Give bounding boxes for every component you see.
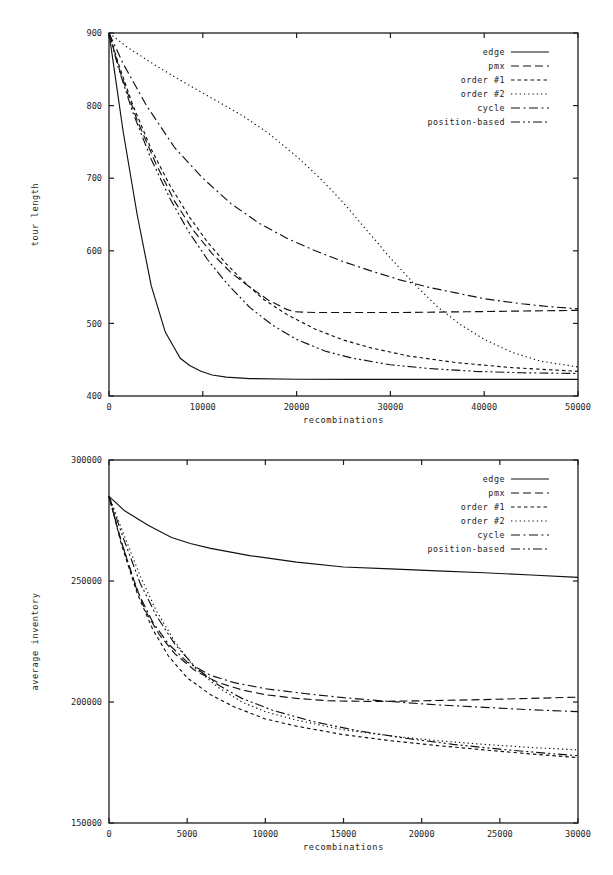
- series-line-order-1: [109, 33, 578, 371]
- x-tick-label: 20000: [284, 402, 310, 412]
- legend-label-order-2: order #2: [461, 516, 505, 526]
- x-tick-label: 10000: [190, 402, 216, 412]
- legend-label-position-based: position-based: [427, 544, 505, 554]
- x-tick-label: 25000: [487, 829, 513, 839]
- chart-tour-length: 0100002000030000400005000040050060070080…: [0, 0, 613, 437]
- legend-label-pmx: pmx: [488, 488, 505, 498]
- legend-label-order-1: order #1: [461, 502, 505, 512]
- series-line-cycle: [109, 33, 578, 309]
- series-line-order-2: [109, 496, 578, 750]
- y-axis-title: tour length: [30, 183, 40, 247]
- y-tick-label: 800: [86, 101, 102, 111]
- legend-label-position-based: position-based: [427, 117, 505, 127]
- series-line-order-1: [109, 496, 578, 757]
- y-tick-label: 300000: [71, 455, 102, 465]
- x-tick-label: 0: [106, 402, 111, 412]
- plot-frame: [109, 33, 578, 396]
- x-tick-label: 15000: [331, 829, 357, 839]
- series-line-order-2: [109, 33, 578, 367]
- x-axis-title: recombinations: [303, 415, 384, 425]
- x-tick-label: 20000: [409, 829, 435, 839]
- legend-label-pmx: pmx: [488, 61, 505, 71]
- x-tick-label: 40000: [471, 402, 497, 412]
- series-line-position-based: [109, 33, 578, 373]
- series-line-position-based: [109, 496, 578, 755]
- series-line-pmx: [109, 496, 578, 701]
- series-line-edge: [109, 496, 578, 577]
- y-tick-label: 700: [86, 173, 102, 183]
- y-tick-label: 200000: [71, 697, 102, 707]
- y-tick-label: 900: [86, 28, 102, 38]
- y-tick-label: 250000: [71, 576, 102, 586]
- legend-label-order-2: order #2: [461, 89, 505, 99]
- average-inventory-svg: 0500010000150002000025000300001500002000…: [0, 437, 613, 875]
- legend-label-edge: edge: [483, 47, 505, 57]
- series-line-cycle: [109, 496, 578, 711]
- legend-label-cycle: cycle: [477, 103, 505, 113]
- y-tick-label: 150000: [71, 818, 102, 828]
- x-tick-label: 30000: [377, 402, 403, 412]
- series-line-edge: [109, 33, 578, 379]
- legend-label-edge: edge: [483, 474, 505, 484]
- x-tick-label: 50000: [565, 402, 591, 412]
- y-tick-label: 600: [86, 246, 102, 256]
- x-tick-label: 0: [106, 829, 111, 839]
- x-tick-label: 10000: [252, 829, 278, 839]
- legend-label-cycle: cycle: [477, 530, 505, 540]
- y-tick-label: 400: [86, 391, 102, 401]
- x-tick-label: 5000: [177, 829, 198, 839]
- chart-average-inventory: 0500010000150002000025000300001500002000…: [0, 437, 613, 875]
- tour-length-svg: 0100002000030000400005000040050060070080…: [0, 0, 613, 437]
- legend-label-order-1: order #1: [461, 75, 505, 85]
- x-axis-title: recombinations: [303, 842, 384, 852]
- y-axis-title: average inventory: [30, 592, 40, 690]
- x-tick-label: 30000: [565, 829, 591, 839]
- series-line-pmx: [109, 33, 578, 313]
- plot-frame: [109, 460, 578, 823]
- y-tick-label: 500: [86, 319, 102, 329]
